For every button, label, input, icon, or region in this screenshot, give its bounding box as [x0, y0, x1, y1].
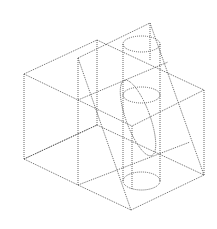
edge-plane-top-edge — [78, 23, 150, 58]
edge-bottom-back-right — [97, 125, 204, 175]
edge-bottom-right — [131, 175, 204, 210]
cylinder-mid-ellipse — [123, 87, 160, 103]
wireframe-diagram — [0, 0, 217, 229]
wireframe-svg — [0, 0, 217, 229]
edge-top-back-right — [97, 40, 204, 90]
edge-bottom-left-front — [24, 159, 78, 185]
cylinder-top-ellipse — [123, 36, 160, 52]
edge-top-right-front — [132, 90, 204, 126]
inclined-section-ellipse — [113, 76, 163, 159]
edge-mid-left-lower — [24, 125, 97, 159]
edge-bottom-mid — [78, 142, 190, 185]
edge-top-left-back — [24, 40, 97, 74]
edge-bottom-front — [78, 185, 131, 210]
cylinder-bottom-ellipse — [123, 172, 160, 190]
